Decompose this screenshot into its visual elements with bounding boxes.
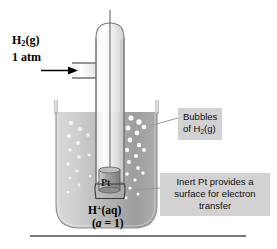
gas-inlet-label: H2(g) 1 atm (12, 33, 41, 64)
gas-inlet-line1: H2(g) (12, 33, 39, 47)
solution-species-label: H+(aq) (88, 204, 121, 216)
pt-electrode-label: Pt (101, 177, 110, 188)
inert-pt-callout-line2: surface for electron (163, 188, 267, 200)
bubbles-callout-line1: Bubbles (183, 111, 217, 123)
she-diagram-figure: H2(g) 1 atm Bubbles of H2(g) Inert Pt pr… (0, 0, 277, 249)
inert-pt-callout-box: Inert Pt provides a surface for electron… (160, 173, 270, 216)
bubbles-callout-box: Bubbles of H2(g) (178, 108, 222, 140)
solution-activity-label: (a = 1) (92, 217, 124, 229)
inert-pt-callout-line3: transfer (163, 200, 267, 212)
inert-pt-callout-line1: Inert Pt provides a (163, 176, 267, 188)
gas-inlet-line2: 1 atm (12, 50, 41, 64)
bubbles-callout-line2: of H2(g) (183, 123, 217, 136)
